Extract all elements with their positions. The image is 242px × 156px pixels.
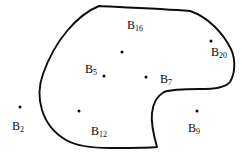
point-label-b20: B20 — [211, 46, 227, 58]
point-label-b9: B9 — [188, 122, 200, 134]
figure-canvas: B2B16B20B5B7B12B9 — [0, 0, 242, 156]
point-dot-b12 — [78, 110, 81, 113]
point-dot-b16 — [121, 51, 124, 54]
point-label-b5: B5 — [85, 63, 97, 75]
point-label-b12: B12 — [91, 125, 107, 137]
point-dot-b20 — [210, 40, 213, 43]
point-dot-b2 — [19, 106, 22, 109]
point-label-b16: B16 — [127, 19, 143, 31]
point-dot-b9 — [196, 110, 199, 113]
region-boundary-svg — [0, 0, 242, 156]
point-dot-b7 — [145, 76, 148, 79]
point-label-b2: B2 — [12, 120, 24, 132]
point-dot-b5 — [103, 75, 106, 78]
point-label-b7: B7 — [160, 73, 172, 85]
